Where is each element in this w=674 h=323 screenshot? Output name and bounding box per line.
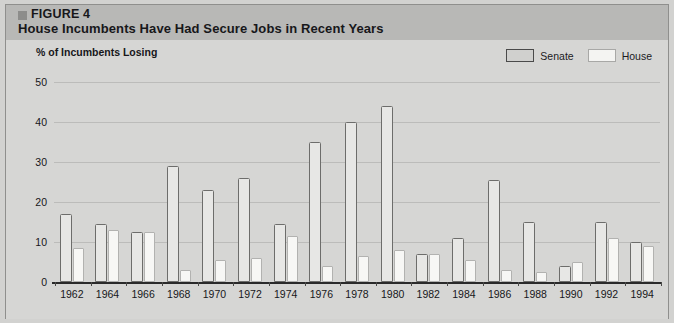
legend-label-house: House <box>622 50 652 62</box>
bar-house-1992 <box>608 238 619 282</box>
figure-container: FIGURE 4 House Incumbents Have Had Secur… <box>0 0 674 323</box>
bar-group-1986 <box>482 82 518 282</box>
gridline-0 <box>54 282 660 283</box>
bar-senate-1986 <box>488 180 500 282</box>
x-axis-tick-1966: 1966 <box>131 288 154 300</box>
bar-senate-1966 <box>131 232 143 282</box>
bar-group-1984 <box>446 82 482 282</box>
bar-group-1982 <box>410 82 446 282</box>
x-tickmark-1974 <box>269 282 270 286</box>
x-tickmark-1964 <box>91 282 92 286</box>
bar-house-1980 <box>394 250 405 282</box>
bar-house-1974 <box>287 236 298 282</box>
bar-group-1992 <box>589 82 625 282</box>
bar-group-1980 <box>375 82 411 282</box>
bar-senate-1988 <box>523 222 535 282</box>
y-axis-tick-0: 0 <box>41 276 47 288</box>
figure-title: House Incumbents Have Had Secure Jobs in… <box>18 21 384 36</box>
bar-house-1962 <box>73 248 84 282</box>
bar-house-1966 <box>144 232 155 282</box>
x-tickmark-1986 <box>483 282 484 286</box>
x-tickmark-1976 <box>305 282 306 286</box>
bar-group-1976 <box>304 82 340 282</box>
bar-house-1984 <box>465 260 476 282</box>
bar-senate-1968 <box>167 166 179 282</box>
x-tickmark-1962 <box>55 282 56 286</box>
bar-senate-1974 <box>274 224 286 282</box>
x-tickmark-1980 <box>376 282 377 286</box>
bar-house-1968 <box>180 270 191 282</box>
y-axis-tick-50: 50 <box>35 76 47 88</box>
bar-senate-1964 <box>95 224 107 282</box>
x-axis-tick-1982: 1982 <box>417 288 440 300</box>
x-tickmark-1990 <box>554 282 555 286</box>
plot-area: 0102030405019621964196619681970197219741… <box>54 82 660 282</box>
bar-house-1964 <box>108 230 119 282</box>
y-axis-tick-30: 30 <box>35 156 47 168</box>
x-axis-tick-1978: 1978 <box>345 288 368 300</box>
bar-house-1972 <box>251 258 262 282</box>
y-axis-tick-20: 20 <box>35 196 47 208</box>
bar-group-1966 <box>125 82 161 282</box>
bar-senate-1992 <box>595 222 607 282</box>
x-axis-tick-1972: 1972 <box>238 288 261 300</box>
bar-senate-1984 <box>452 238 464 282</box>
bar-group-1994 <box>624 82 660 282</box>
bar-group-1974 <box>268 82 304 282</box>
x-tickmark-1966 <box>126 282 127 286</box>
x-tickmark-1994 <box>625 282 626 286</box>
x-axis-tick-1992: 1992 <box>595 288 618 300</box>
legend-label-senate: Senate <box>540 50 573 62</box>
bar-house-1990 <box>572 262 583 282</box>
x-axis-tick-1974: 1974 <box>274 288 297 300</box>
bar-senate-1978 <box>345 122 357 282</box>
x-axis-tick-1962: 1962 <box>60 288 83 300</box>
bar-group-1970 <box>197 82 233 282</box>
bar-group-1988 <box>517 82 553 282</box>
bar-house-1976 <box>322 266 333 282</box>
x-axis-tick-1980: 1980 <box>381 288 404 300</box>
x-tickmark-1968 <box>162 282 163 286</box>
x-axis-tick-1986: 1986 <box>488 288 511 300</box>
x-tickmark-1972 <box>233 282 234 286</box>
bar-senate-1970 <box>202 190 214 282</box>
bar-senate-1972 <box>238 178 250 282</box>
bar-senate-1990 <box>559 266 571 282</box>
y-axis-tick-40: 40 <box>35 116 47 128</box>
x-tickmark-1978 <box>340 282 341 286</box>
y-axis-label: % of Incumbents Losing <box>36 46 157 58</box>
bar-house-1982 <box>429 254 440 282</box>
x-tickmark-1970 <box>198 282 199 286</box>
bar-house-1978 <box>358 256 369 282</box>
bar-group-1968 <box>161 82 197 282</box>
x-axis-tick-1990: 1990 <box>559 288 582 300</box>
bar-house-1988 <box>536 272 547 282</box>
bar-house-1994 <box>643 246 654 282</box>
x-axis-tick-1994: 1994 <box>630 288 653 300</box>
senate-swatch <box>506 49 534 62</box>
bar-senate-1994 <box>630 242 642 282</box>
bar-group-1978 <box>339 82 375 282</box>
bar-senate-1980 <box>381 106 393 282</box>
x-tickmark-end <box>661 282 662 286</box>
x-axis-tick-1976: 1976 <box>310 288 333 300</box>
x-tickmark-1988 <box>518 282 519 286</box>
bar-group-1990 <box>553 82 589 282</box>
x-tickmark-1992 <box>590 282 591 286</box>
legend-item-house: House <box>588 49 652 62</box>
bar-group-1972 <box>232 82 268 282</box>
x-axis-tick-1984: 1984 <box>452 288 475 300</box>
bar-senate-1982 <box>416 254 428 282</box>
bar-senate-1976 <box>309 142 321 282</box>
house-swatch <box>588 49 616 62</box>
y-axis-tick-10: 10 <box>35 236 47 248</box>
bar-house-1986 <box>501 270 512 282</box>
square-marker-icon <box>18 11 27 20</box>
figure-label: FIGURE 4 <box>31 7 90 21</box>
x-axis-tick-1970: 1970 <box>203 288 226 300</box>
bar-group-1964 <box>90 82 126 282</box>
bar-house-1970 <box>215 260 226 282</box>
x-axis-tick-1988: 1988 <box>524 288 547 300</box>
x-axis-tick-1964: 1964 <box>96 288 119 300</box>
x-tickmark-1984 <box>447 282 448 286</box>
